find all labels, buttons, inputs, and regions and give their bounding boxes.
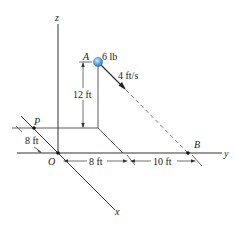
point-b [186,151,190,155]
dim-10ft-label: 10 ft [153,156,172,167]
a-foot-diagonal [98,128,123,153]
path-dashed [126,90,188,153]
p-offset-label: 8 ft [25,135,39,146]
origin-label: O [48,156,55,167]
b-label: B [194,139,200,150]
dynamics-diagram: 12 ft 8 ft 8 ft 10 ft z y x O P A B 6 lb… [0,0,235,227]
dim-8ft-arrow-right [123,159,128,162]
height-arrow-bottom [81,123,84,128]
dim-8ft-label: 8 ft [89,156,103,167]
ball-weight-label: 6 lb [102,51,117,62]
velocity-label: 4 ft/s [118,70,138,81]
z-axis-label: z [54,12,59,23]
p-offset-ext-1 [16,126,22,132]
height-arrow-top [81,62,84,67]
x-axis-label: x [114,206,120,217]
a-label: A [82,51,90,62]
dim-10ft-arrow-right [191,159,196,162]
point-o [56,151,60,155]
p-offset-leader [34,147,41,152]
p-label: P [33,116,40,127]
height-label: 12 ft [73,89,92,100]
y-axis-label: y [223,148,229,159]
